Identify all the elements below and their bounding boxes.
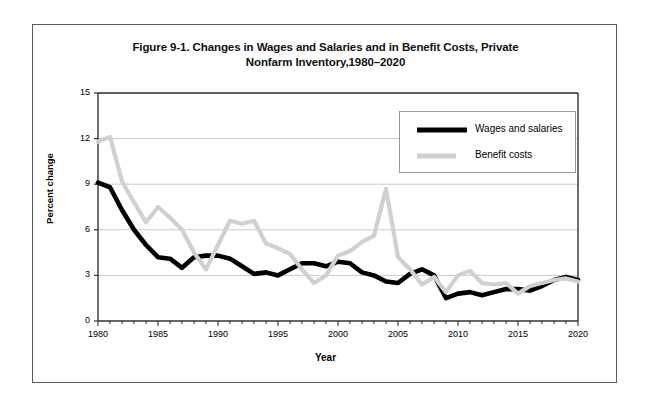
x-tick-label: 2000 <box>318 329 358 339</box>
figure-frame: Figure 9-1. Changes in Wages and Salarie… <box>32 24 617 383</box>
y-tick-label: 12 <box>64 133 90 143</box>
y-tick-label: 9 <box>64 178 90 188</box>
legend-swatch-wages-icon <box>416 126 468 134</box>
x-tick-label: 1985 <box>138 329 178 339</box>
legend-label-benefits: Benefit costs <box>475 149 532 160</box>
legend-item-benefits: Benefit costs <box>400 146 575 166</box>
x-tick-label: 1980 <box>78 329 118 339</box>
x-tick-label: 2010 <box>438 329 478 339</box>
x-tick-label: 2020 <box>558 329 598 339</box>
legend-item-wages: Wages and salaries <box>400 120 575 140</box>
y-tick-label: 3 <box>64 269 90 279</box>
x-tick-label: 2015 <box>498 329 538 339</box>
y-tick-label: 6 <box>64 224 90 234</box>
x-tick-label: 1995 <box>258 329 298 339</box>
x-tick-label: 1990 <box>198 329 238 339</box>
x-tick-label: 2005 <box>378 329 418 339</box>
y-tick-label: 0 <box>64 315 90 325</box>
y-tick-label: 15 <box>64 87 90 97</box>
legend-swatch-benefits-icon <box>416 152 468 160</box>
chart-legend: Wages and salaries Benefit costs <box>399 111 576 173</box>
legend-label-wages: Wages and salaries <box>475 123 562 134</box>
